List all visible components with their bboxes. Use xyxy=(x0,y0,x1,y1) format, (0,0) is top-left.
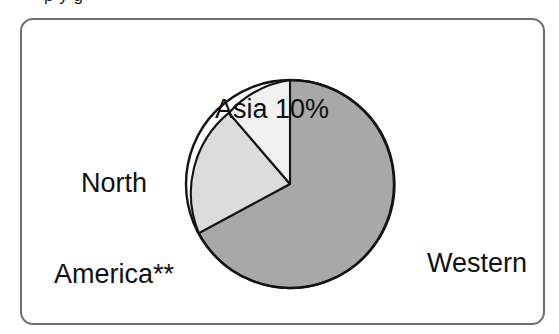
clipped-caption-above-figure: p y g xyxy=(44,0,304,4)
slice-label-western-europe: Western Europe 67% xyxy=(402,188,552,334)
slice-label-asia-line1: Asia 10% xyxy=(192,94,352,124)
pie-chart-figure: p y g Asia 10% North America** 23% Weste… xyxy=(0,0,559,334)
slice-label-western-europe-line1: Western xyxy=(402,248,552,278)
slice-label-north-america-line1: North xyxy=(34,168,194,198)
slice-label-north-america: North America** 23% xyxy=(34,108,194,334)
slice-label-asia: Asia 10% xyxy=(192,34,352,185)
slice-label-north-america-line2: America** xyxy=(34,259,194,289)
